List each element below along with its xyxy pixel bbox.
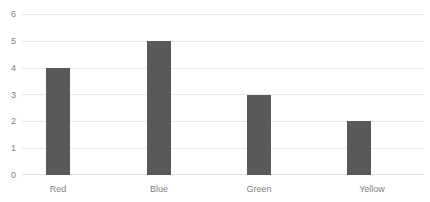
chart-title — [0, 0, 430, 2]
bar-chart: 6 5 4 3 2 1 0 Red Blue Green Yellow — [0, 0, 430, 202]
gridline-5 — [22, 41, 424, 42]
gridline-4 — [22, 68, 424, 69]
bar-blue[interactable] — [147, 41, 171, 175]
x-axis-label-green: Green — [219, 184, 299, 194]
y-axis-tick-4: 4 — [0, 64, 16, 73]
bar-red[interactable] — [46, 68, 70, 175]
y-axis-tick-5: 5 — [0, 37, 16, 46]
bar-green[interactable] — [247, 95, 271, 176]
gridline-3 — [22, 94, 424, 95]
bar-yellow[interactable] — [347, 121, 371, 175]
x-axis-label-yellow: Yellow — [332, 184, 412, 194]
x-axis-label-red: Red — [18, 184, 98, 194]
gridline-6 — [22, 14, 424, 15]
y-axis-tick-0: 0 — [0, 171, 16, 180]
y-axis-tick-3: 3 — [0, 91, 16, 100]
y-axis-tick-6: 6 — [0, 10, 16, 19]
x-axis-label-blue: Blue — [119, 184, 199, 194]
y-axis-tick-2: 2 — [0, 117, 16, 126]
plot-area — [22, 14, 424, 175]
y-axis-tick-1: 1 — [0, 144, 16, 153]
